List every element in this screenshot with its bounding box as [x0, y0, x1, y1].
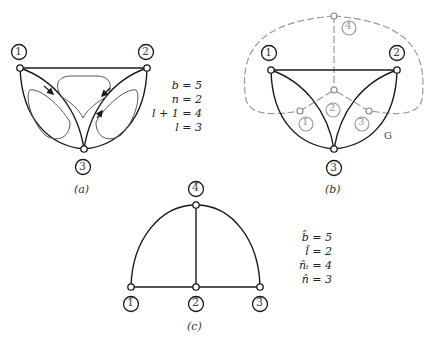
node-label-1-hat: 1̂	[127, 296, 134, 309]
figure-canvas	[0, 0, 436, 344]
node-label-3-hat: 3̂	[256, 296, 263, 309]
caption-c: (c)	[187, 320, 202, 333]
equation-b: b = 5	[150, 79, 202, 93]
node-label-1: 1	[265, 46, 272, 59]
caption-b: (b)	[325, 183, 341, 196]
dual-node-label-2: 2̂	[329, 102, 335, 113]
equation-l-hat: l̂ = 2	[282, 245, 332, 259]
node-label-4-hat: 4̂	[192, 181, 199, 194]
panel-a-graph	[20, 68, 147, 149]
mesh-loop-right	[96, 90, 138, 139]
node-label-3: 3	[79, 160, 86, 173]
node-1	[17, 65, 23, 71]
panel-a-mesh-loops	[28, 76, 138, 139]
node-3	[81, 146, 87, 152]
edge-2-3-inner	[84, 68, 147, 149]
panel-a-node-label-circles	[12, 45, 154, 175]
edge-2-3-outer	[84, 68, 147, 149]
panel-b-dual-graph	[244, 16, 423, 114]
graph-label-g: G	[384, 130, 392, 141]
dual-node-label-1: 1̂	[302, 116, 308, 127]
equation-b-hat: b̂ = 5	[282, 231, 332, 245]
panel-c-equations: b̂ = 5 l̂ = 2 n̂ₜ = 4 n̂ = 3	[282, 231, 332, 287]
node-label-3: 3	[330, 161, 337, 174]
node-label-2: 2	[142, 45, 149, 58]
equation-n-hat: n̂ = 3	[282, 273, 332, 287]
node-2	[144, 65, 150, 71]
node-label-2: 2	[393, 46, 400, 59]
dual-node-label-3: 3̂	[358, 116, 364, 127]
equation-l: l = 3	[150, 121, 202, 135]
node-label-2-hat: 2̂	[192, 296, 199, 309]
node-label-1: 1	[15, 45, 22, 58]
panel-c-graph	[131, 205, 260, 287]
panel-a-nodes	[17, 65, 150, 152]
caption-a: (a)	[74, 183, 89, 196]
mesh-loop-left	[28, 90, 70, 139]
equation-l-plus-1: l + 1 = 4	[150, 107, 202, 121]
dual-node-label-4: 4̂	[345, 20, 351, 31]
panel-a-equations: b = 5 n = 2 l + 1 = 4 l = 3	[150, 79, 202, 135]
mesh-loop-top	[57, 76, 110, 97]
equation-nt-hat: n̂ₜ = 4	[282, 259, 332, 273]
equation-n: n = 2	[150, 93, 202, 107]
